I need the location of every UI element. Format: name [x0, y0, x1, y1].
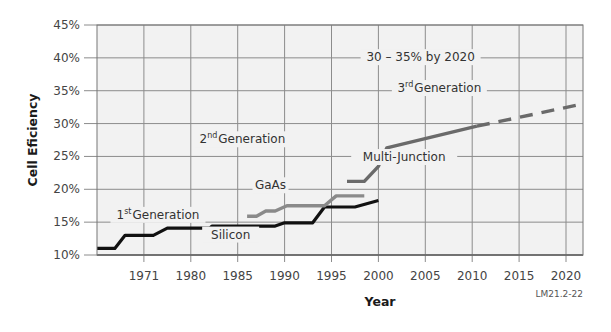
generation-number: 2 — [200, 132, 208, 146]
annotation-label: Silicon — [211, 228, 250, 242]
generation-word: Generation — [218, 132, 285, 146]
y-tick-label: 30% — [53, 117, 80, 131]
generation-word: Generation — [414, 81, 481, 95]
x-tick-label: 1995 — [316, 269, 347, 283]
y-axis-title: Cell Eficiency — [25, 93, 40, 186]
x-tick-label: 2010 — [457, 269, 488, 283]
generation-suffix: rd — [405, 80, 413, 89]
annotation-label: GaAs — [255, 178, 286, 192]
x-tick-label: 2015 — [504, 269, 535, 283]
generation-suffix: st — [124, 207, 131, 216]
generation-suffix: nd — [207, 131, 217, 140]
efficiency-chart: 10%15%20%25%30%35%40%45% 197119801985199… — [0, 0, 611, 332]
y-tick-label: 20% — [53, 182, 80, 196]
x-tick-label: 1985 — [222, 269, 253, 283]
generation-number: 1 — [117, 208, 125, 222]
x-tick-label: 1990 — [269, 269, 300, 283]
y-tick-label: 45% — [53, 18, 80, 32]
annotation-label: 30 – 35% by 2020 — [366, 50, 474, 64]
x-axis: 1971198019851990199520002005201020152020 — [97, 255, 583, 283]
y-tick-label: 10% — [53, 248, 80, 262]
x-tick-label: 2005 — [410, 269, 441, 283]
y-axis: 10%15%20%25%30%35%40%45% — [53, 18, 80, 262]
y-tick-label: 25% — [53, 149, 80, 163]
annotation-label: Multi-Junction — [363, 150, 446, 164]
generation-word: Generation — [132, 208, 199, 222]
y-tick-label: 35% — [53, 84, 80, 98]
y-tick-label: 40% — [53, 51, 80, 65]
y-tick-label: 15% — [53, 215, 80, 229]
x-tick-label: 1980 — [176, 269, 207, 283]
x-tick-label: 1971 — [129, 269, 160, 283]
figure-code-label: LM21.2-22 — [535, 289, 583, 299]
generation-number: 3 — [397, 81, 405, 95]
x-tick-label: 2000 — [363, 269, 394, 283]
x-axis-title: Year — [364, 294, 397, 309]
x-tick-label: 2020 — [551, 269, 582, 283]
